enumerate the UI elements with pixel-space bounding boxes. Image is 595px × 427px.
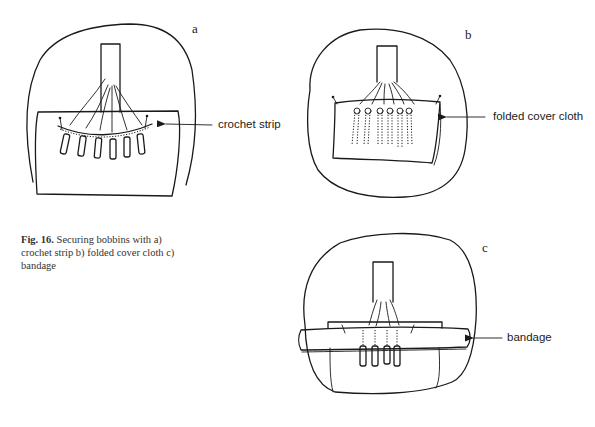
pattern-strip (377, 46, 397, 82)
folded-cover-cloth (333, 100, 440, 164)
pattern-strip (373, 262, 393, 302)
panel-b-label: folded cover cloth (493, 110, 583, 122)
panel-b-drawing (308, 29, 485, 197)
pillow-outline (304, 234, 477, 394)
cover-cloth (35, 111, 179, 196)
panel-a-letter: a (192, 21, 198, 37)
pillow-outline (27, 24, 196, 185)
panel-a-label: crochet strip (218, 118, 281, 130)
panel-b-letter: b (465, 27, 472, 43)
figure-drawing (0, 0, 595, 427)
crochet-strip (58, 124, 152, 135)
panel-c-drawing (299, 234, 502, 394)
figure-number: Fig. 16. (21, 234, 54, 245)
panel-c-letter: c (482, 240, 488, 256)
panel-c-label: bandage (507, 331, 552, 343)
arrow-crochet-strip (166, 124, 212, 125)
panel-a-drawing (27, 24, 212, 196)
hidden-bobbins (352, 108, 412, 147)
bobbins (60, 134, 145, 159)
figure-caption: Fig. 16. Securing bobbins with a) croche… (21, 233, 191, 272)
pattern-strip (101, 44, 120, 112)
bobbins (360, 330, 400, 366)
